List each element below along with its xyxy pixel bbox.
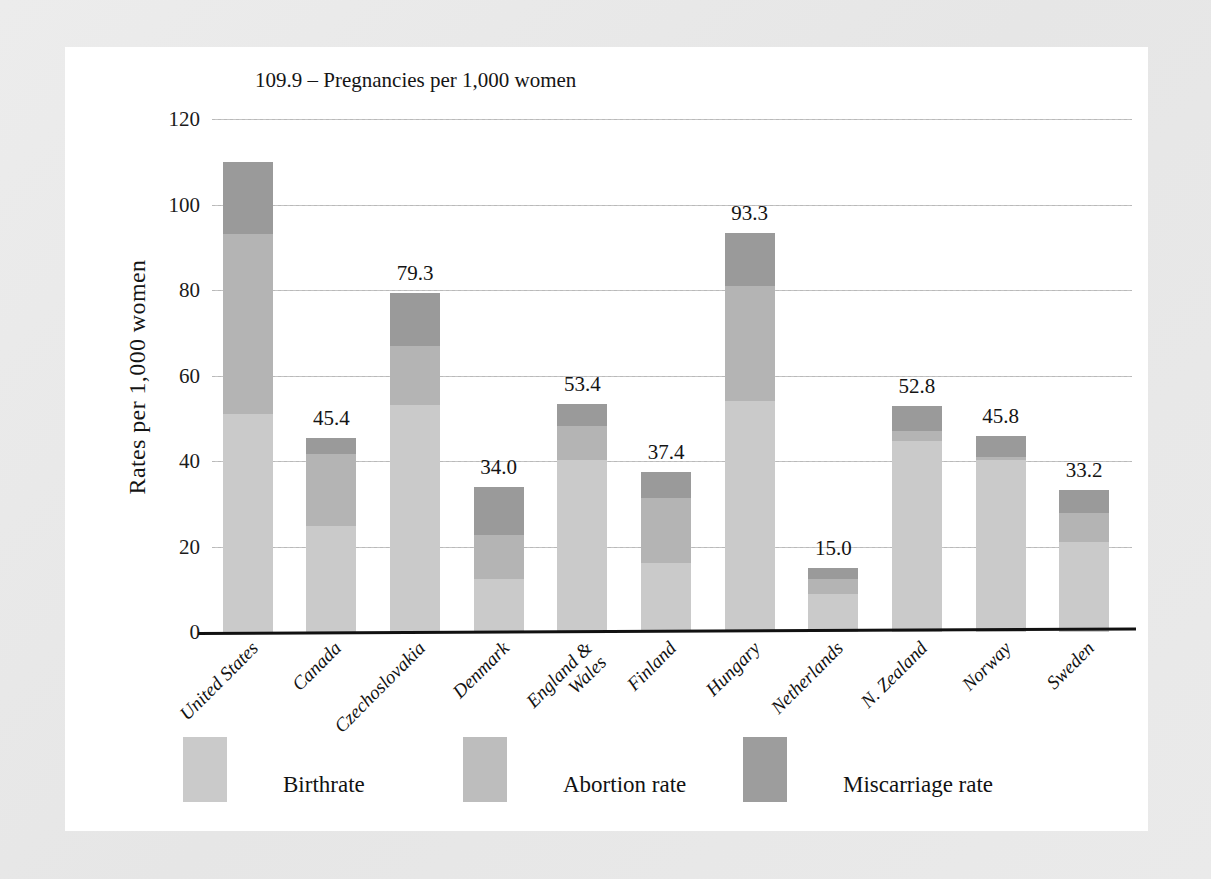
y-axis-tick-label: 40 — [179, 449, 200, 474]
bar-segment-misc — [223, 162, 273, 234]
scanned-page-background: Rates per 1,000 women 109.9 – Pregnancie… — [0, 0, 1211, 879]
bar-total-label: 79.3 — [397, 261, 434, 286]
stacked-bar — [223, 162, 273, 632]
bar-segment-birth — [725, 401, 775, 632]
stacked-bar — [725, 233, 775, 632]
bar-total-label: 37.4 — [648, 440, 685, 465]
gridline — [212, 290, 1132, 291]
legend-label: Miscarriage rate — [843, 772, 993, 798]
bar-segment-misc — [474, 487, 524, 536]
bar-segment-birth — [976, 460, 1026, 632]
bar-segment-abort — [1059, 513, 1109, 542]
bar-segment-misc — [976, 436, 1026, 457]
legend-item: Abortion rate — [463, 737, 686, 802]
bar-segment-abort — [557, 426, 607, 461]
stacked-bar — [557, 404, 607, 632]
bar-segment-birth — [557, 460, 607, 632]
gridline — [212, 205, 1132, 206]
bar-segment-abort — [390, 346, 440, 406]
pregnancies-annotation: 109.9 – Pregnancies per 1,000 women — [255, 68, 576, 93]
stacked-bar — [976, 436, 1026, 632]
bar-segment-birth — [808, 594, 858, 632]
bar-segment-misc — [1059, 490, 1109, 513]
bar-segment-birth — [474, 579, 524, 632]
bar-segment-birth — [306, 526, 356, 632]
bar-total-label: 15.0 — [815, 536, 852, 561]
bar-segment-birth — [641, 563, 691, 632]
bar-segment-birth — [1059, 542, 1109, 632]
bar-segment-misc — [390, 293, 440, 346]
legend-swatch-birthrate — [183, 737, 227, 802]
bar-total-label: 45.8 — [982, 404, 1019, 429]
bar-segment-misc — [306, 438, 356, 454]
chart-paper: Rates per 1,000 women 109.9 – Pregnancie… — [65, 47, 1148, 831]
bar-total-label: 93.3 — [731, 201, 768, 226]
legend-label: Birthrate — [283, 772, 365, 798]
y-axis-tick-label: 100 — [169, 192, 201, 217]
stacked-bar — [390, 293, 440, 632]
bar-segment-abort — [223, 234, 273, 414]
stacked-bar — [892, 406, 942, 632]
bar-segment-birth — [223, 414, 273, 632]
stacked-bar — [474, 487, 524, 632]
bar-segment-abort — [808, 579, 858, 594]
bar-total-label: 45.4 — [313, 406, 350, 431]
bar-segment-abort — [725, 286, 775, 401]
legend-item: Birthrate — [183, 737, 365, 802]
legend-swatch-abortion — [463, 737, 507, 802]
y-axis-title: Rates per 1,000 women — [124, 259, 151, 494]
bar-segment-abort — [306, 454, 356, 526]
legend-item: Miscarriage rate — [743, 737, 993, 802]
y-axis-tick-label: 80 — [179, 278, 200, 303]
gridline — [212, 376, 1132, 377]
stacked-bar — [1059, 490, 1109, 632]
stacked-bar — [306, 438, 356, 632]
gridline — [212, 119, 1132, 120]
plot-area: 109.9 – Pregnancies per 1,000 women 0204… — [212, 119, 1132, 632]
bar-total-label: 34.0 — [480, 455, 517, 480]
stacked-bar — [808, 568, 858, 632]
bar-segment-abort — [641, 498, 691, 563]
bar-segment-abort — [474, 535, 524, 579]
bar-total-label: 33.2 — [1066, 458, 1103, 483]
bar-segment-misc — [557, 404, 607, 426]
legend-swatch-miscarriage — [743, 737, 787, 802]
bar-segment-misc — [641, 472, 691, 498]
bar-segment-misc — [725, 233, 775, 286]
bar-total-label: 53.4 — [564, 372, 601, 397]
legend-label: Abortion rate — [563, 772, 686, 798]
bar-segment-misc — [892, 406, 942, 430]
y-axis-tick-label: 120 — [169, 107, 201, 132]
y-axis-tick-label: 60 — [179, 363, 200, 388]
chart-legend: BirthrateAbortion rateMiscarriage rate — [65, 737, 1148, 847]
y-axis-tick-label: 20 — [179, 534, 200, 559]
bar-segment-birth — [390, 405, 440, 632]
bar-segment-abort — [892, 431, 942, 442]
bar-segment-misc — [808, 568, 858, 579]
bar-segment-birth — [892, 441, 942, 632]
stacked-bar — [641, 472, 691, 632]
bar-total-label: 52.8 — [899, 374, 936, 399]
